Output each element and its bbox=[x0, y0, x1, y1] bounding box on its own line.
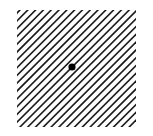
fixation-dot bbox=[68, 63, 75, 70]
line-grating-stimulus bbox=[0, 0, 153, 136]
